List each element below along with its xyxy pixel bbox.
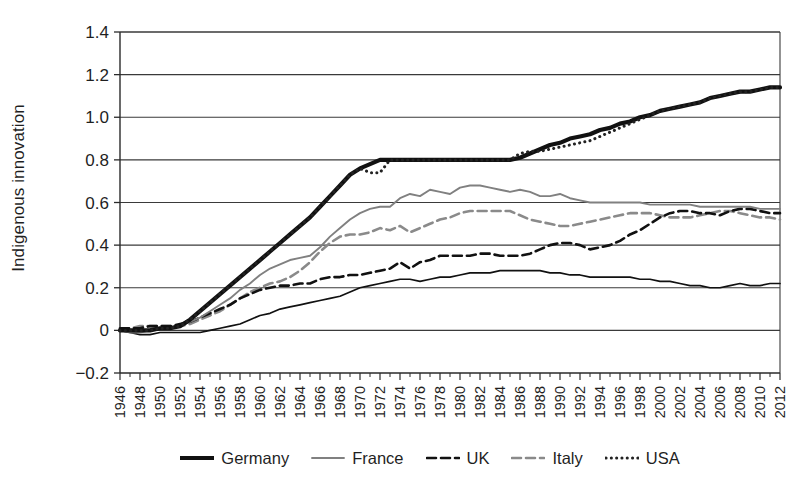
chart-figure: Indigenous innovation 1.41.21.00.80.60.4… <box>0 0 809 501</box>
x-tick-label: 2010 <box>752 386 768 418</box>
chart-svg: 1.41.21.00.80.60.40.20−0.219461948195019… <box>0 0 809 501</box>
x-tick-label: 1980 <box>452 386 468 418</box>
x-tick-label: 1960 <box>252 386 268 418</box>
y-tick-label: 1.0 <box>85 108 109 127</box>
x-tick-label: 1954 <box>192 386 208 418</box>
legend-label-italy: Italy <box>552 449 582 468</box>
legend-swatch-france <box>311 452 345 464</box>
x-tick-label: 1982 <box>472 386 488 418</box>
y-tick-label: 0.2 <box>85 279 109 298</box>
x-tick-label: 1958 <box>232 386 248 418</box>
y-tick-label: −0.2 <box>75 364 109 383</box>
x-tick-label: 2008 <box>732 386 748 418</box>
x-tick-label: 1952 <box>172 386 188 418</box>
x-tick-label: 1946 <box>112 386 128 418</box>
legend-swatch-usa <box>605 452 639 464</box>
chart-legend: GermanyFranceUKItalyUSA <box>120 443 740 473</box>
legend-item-italy[interactable]: Italy <box>511 449 582 468</box>
legend-swatch-italy <box>511 452 545 464</box>
x-tick-label: 2006 <box>712 386 728 418</box>
x-tick-label: 1998 <box>632 386 648 418</box>
x-tick-label: 1974 <box>392 386 408 418</box>
legend-label-usa: USA <box>646 449 680 468</box>
x-tick-label: 1962 <box>272 386 288 418</box>
plot-area: 1.41.21.00.80.60.40.20−0.219461948195019… <box>0 0 809 501</box>
y-tick-label: 0.8 <box>85 151 109 170</box>
x-tick-label: 1990 <box>552 386 568 418</box>
series-line-usa <box>120 87 780 330</box>
y-tick-label: 1.2 <box>85 66 109 85</box>
x-tick-label: 1956 <box>212 386 228 418</box>
y-tick-label: 0.6 <box>85 194 109 213</box>
y-tick-label: 1.4 <box>85 23 109 42</box>
x-tick-label: 1996 <box>612 386 628 418</box>
series-line-uk <box>120 209 780 328</box>
y-tick-label: 0 <box>100 321 109 340</box>
x-tick-label: 1986 <box>512 386 528 418</box>
legend-item-germany[interactable]: Germany <box>180 449 289 468</box>
legend-swatch-germany <box>180 452 214 464</box>
legend-label-germany: Germany <box>221 449 289 468</box>
x-tick-label: 1968 <box>332 386 348 418</box>
legend-label-france: France <box>352 449 403 468</box>
legend-item-uk[interactable]: UK <box>426 449 490 468</box>
x-tick-label: 1966 <box>312 386 328 418</box>
x-tick-label: 2000 <box>652 386 668 418</box>
x-tick-label: 1964 <box>292 386 308 418</box>
x-tick-label: 1976 <box>412 386 428 418</box>
legend-item-usa[interactable]: USA <box>605 449 680 468</box>
x-tick-label: 1994 <box>592 386 608 418</box>
y-tick-label: 0.4 <box>85 236 109 255</box>
x-tick-label: 1988 <box>532 386 548 418</box>
x-tick-label: 1992 <box>572 386 588 418</box>
legend-item-france[interactable]: France <box>311 449 403 468</box>
x-tick-label: 2004 <box>692 386 708 418</box>
x-tick-label: 1978 <box>432 386 448 418</box>
x-tick-label: 1970 <box>352 386 368 418</box>
legend-swatch-uk <box>426 452 460 464</box>
x-tick-label: 1972 <box>372 386 388 418</box>
x-tick-label: 1984 <box>492 386 508 418</box>
legend-label-uk: UK <box>467 449 490 468</box>
x-tick-label: 1948 <box>132 386 148 418</box>
x-tick-label: 2012 <box>772 386 788 418</box>
x-tick-label: 1950 <box>152 386 168 418</box>
series-line-unlabeled-lower <box>120 271 780 335</box>
x-tick-label: 2002 <box>672 386 688 418</box>
